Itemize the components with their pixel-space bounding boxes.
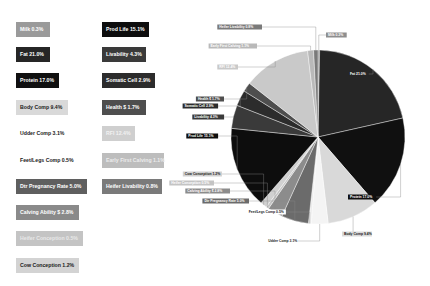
pie-label-text: Protein 17.0%	[350, 195, 372, 199]
pie-label-text: Feet/Legs Comp 0.5%	[249, 210, 284, 214]
pie-label: Somatic Cell 2.9%	[183, 104, 219, 109]
pie-label: Milk 0.3%	[326, 33, 347, 38]
pie-label: Heifer Conception 0.5%	[169, 181, 214, 186]
pie-label-text: Heifer Livability 0.8%	[219, 25, 253, 29]
pie-label: Early First Calving 1.1%	[209, 44, 257, 49]
pie-label-text: Health $ 1.7%	[198, 97, 220, 101]
pie-label: Udder Comp 3.1%	[266, 239, 298, 244]
pie-slices	[231, 50, 405, 224]
pie-label: Health $ 1.7%	[196, 97, 224, 102]
leader-line	[262, 27, 316, 50]
pie-label-text: Livability 4.3%	[194, 115, 217, 119]
pie-label-text: Somatic Cell 2.9%	[185, 104, 214, 108]
pie-label-text: Calving Ability $ 2.8%	[187, 189, 222, 193]
pie-label-text: Prod Life 15.1%	[188, 134, 213, 138]
pie-label: Body Comp 9.4%	[342, 232, 372, 237]
pie-chart: Milk 0.3%Fat 21.0%Protein 17.0%Body Comp…	[0, 0, 430, 286]
pie-label: Calving Ability $ 2.8%	[185, 189, 230, 194]
pie-label: RFI 12.4%	[217, 65, 238, 70]
pie-label: Fat 21.0%	[348, 72, 369, 77]
pie-label: Feet/Legs Comp 0.5%	[247, 210, 286, 215]
leader-line	[257, 46, 311, 50]
pie-label-text: Body Comp 9.4%	[344, 232, 372, 236]
pie-label: Dtr Pregnancy Rate 5.0%	[202, 199, 249, 204]
pie-label-text: Milk 0.3%	[328, 33, 343, 37]
pie-label-text: Heifer Conception 0.5%	[171, 181, 209, 185]
leader-line	[298, 224, 320, 241]
pie-label: Livability 4.3%	[192, 115, 224, 120]
pie-label-text: RFI 12.4%	[219, 65, 235, 69]
pie-label-text: Cow Conception 1.2%	[185, 172, 220, 176]
leader-line	[319, 35, 326, 50]
pie-label: Protein 17.0%	[348, 195, 376, 200]
pie-label-text: Udder Comp 3.1%	[268, 239, 297, 243]
pie-label: Cow Conception 1.2%	[183, 172, 222, 177]
pie-label-text: Fat 21.0%	[350, 72, 366, 76]
pie-label: Heifer Livability 0.8%	[217, 25, 262, 30]
pie-label: Prod Life 15.1%	[186, 134, 218, 139]
pie-label-text: Early First Calving 1.1%	[211, 44, 249, 48]
pie-label-text: Dtr Pregnancy Rate 5.0%	[204, 199, 244, 203]
